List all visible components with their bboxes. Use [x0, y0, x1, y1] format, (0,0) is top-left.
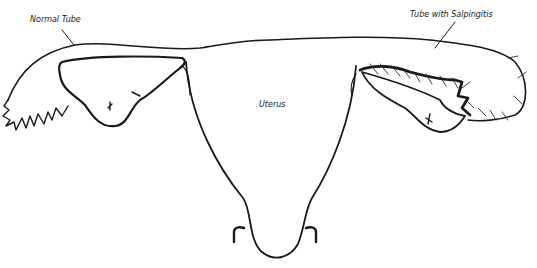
- salpingitis-tube-label: Tube with Salpingitis: [410, 10, 493, 19]
- speculum-right: [306, 227, 316, 242]
- normal-tube-leader: [62, 30, 74, 45]
- normal-tube-label: Normal Tube: [30, 15, 81, 24]
- right-ovary-mark: [426, 114, 432, 124]
- speculum-left: [234, 227, 244, 242]
- uterus-diagram: Normal Tube Tube with Salpingitis Uterus: [0, 0, 537, 268]
- uterus-outline: [186, 62, 356, 258]
- uterus-label: Uterus: [259, 100, 285, 109]
- salpingitis-hatching: [370, 56, 526, 120]
- salpingitis-leader: [435, 22, 455, 48]
- left-ovary-marks: [108, 92, 140, 110]
- diagram-drawing: [0, 0, 537, 268]
- salpingitis-tube-outline: [270, 37, 526, 121]
- left-ovary-loop: [59, 57, 185, 127]
- normal-tube-fimbriae: [3, 100, 68, 130]
- normal-tube-outline: [8, 40, 270, 100]
